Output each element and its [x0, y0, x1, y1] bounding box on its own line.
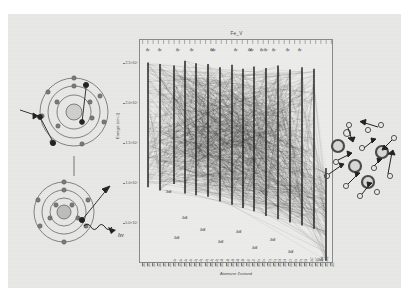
y-tick-mark	[123, 143, 126, 144]
x-tick-mark	[226, 263, 227, 266]
x-tick-label: 3d5	[332, 263, 335, 267]
x-tick-label: 3d4	[159, 263, 162, 267]
x-tick-label: 3d4	[169, 263, 172, 267]
x-tick-label: 3d2 4s2	[316, 257, 319, 267]
level-label: 4p	[298, 48, 301, 52]
x-tick-label: 3d3 5s	[263, 259, 266, 267]
plot-title: Fe_V	[139, 31, 334, 36]
x-tick-label: 3d3 4d	[227, 259, 230, 267]
level-label: 4p	[260, 48, 263, 52]
left-atom-illustration: hν	[12, 60, 138, 260]
y-tick-label: 1.0×10⁵	[125, 181, 138, 185]
y-tick-mark	[123, 183, 126, 184]
x-tick-label: 3d3 5d	[279, 259, 282, 267]
level-label: 4p	[286, 48, 289, 52]
level-label: 4p	[264, 48, 267, 52]
svg-text:hν: hν	[118, 232, 124, 238]
x-tick-label: 3d3 4p	[206, 259, 209, 267]
y-tick-label: 2.0×10⁵	[125, 101, 138, 105]
x-tick-label: 3d3 5f	[290, 260, 293, 267]
x-tick-label: 3d3 4d	[242, 259, 245, 267]
y-axis-label: Energie (cm-1)	[115, 113, 120, 139]
x-tick-label: 3d3 4s	[190, 259, 193, 267]
x-tick-label: 3d3 6d	[305, 259, 308, 267]
x-tick-label: 3d3 5p	[274, 259, 277, 267]
plasma-svg	[322, 118, 402, 208]
level-label: 4p	[158, 48, 161, 52]
x-tick-label: 3d3 5d	[284, 259, 287, 267]
configuration-label: 3d4	[200, 228, 205, 232]
grotrian-plot: Fe_V Energie (cm-1) 4p4p4p4p4p4p4p4p4p4p…	[139, 31, 334, 279]
y-tick-mark	[123, 63, 126, 64]
level-label: 4p	[146, 48, 149, 52]
x-tick-mark	[157, 263, 158, 266]
x-tick-label: 3d3 5s	[258, 259, 261, 267]
right-plasma-illustration	[322, 118, 402, 208]
x-tick-mark	[267, 263, 268, 266]
level-label: 4p	[272, 48, 275, 52]
y-tick-mark	[123, 103, 126, 104]
level-label: 4p	[234, 48, 237, 52]
configuration-label: 3d4	[218, 240, 223, 244]
atom-illustration-svg: hν	[12, 60, 138, 260]
x-tick-label: 3d3 5p	[269, 259, 272, 267]
plot-frame: 4p4p4p4p4p4p4p4p4p4p4p4p4p4p 3d43d43d43d…	[139, 39, 333, 263]
configuration-label: 3d4	[182, 216, 187, 220]
x-tick-label: 3d3 4f	[253, 260, 256, 267]
configuration-label: 3d4	[166, 190, 171, 194]
slide-canvas: hν Fe_V Energie (cm-1) 4p4p4p4p4p4p4p4p4…	[8, 14, 401, 288]
top-tick-marks	[140, 40, 333, 46]
x-tick-label: 3d4	[164, 263, 167, 267]
x-tick-label: 3d3 4d	[237, 259, 240, 267]
x-tick-label: 3d3 4p	[216, 259, 219, 267]
x-tick-label: 3d3 4d	[232, 259, 235, 267]
x-tick-mark	[288, 263, 289, 266]
x-axis-label: Atomarer Zustand	[139, 271, 333, 276]
level-label: 4p	[176, 48, 179, 52]
level-label: 4p	[250, 48, 253, 52]
configuration-label: 3d4	[174, 236, 179, 240]
x-tick-label: 3d3 4s	[174, 259, 177, 267]
x-tick-label: 3d3 6s	[295, 259, 298, 267]
y-tick-label: 1.5×10⁵	[125, 141, 138, 145]
configuration-label: 3d4	[236, 230, 241, 234]
x-tick-mark	[309, 263, 310, 266]
level-label: 4p	[212, 48, 215, 52]
x-tick-label: 3d4	[148, 263, 151, 267]
x-tick-label: 3d3 4s	[185, 259, 188, 267]
x-tick-label: 3d2 4s4p	[326, 256, 329, 267]
x-tick-mark	[330, 263, 331, 266]
x-tick-label: 3d2 4s4p	[321, 256, 324, 267]
y-tick-mark	[123, 223, 126, 224]
configuration-label: 3d4	[252, 246, 257, 250]
x-tick-label: 3d4	[153, 263, 156, 267]
x-tick-label: 3d3 4f	[248, 260, 251, 267]
x-tick-label: 3d4	[143, 263, 146, 267]
x-tick-label: 3d3 4p	[211, 259, 214, 267]
x-tick-label: 3d3 4s	[180, 259, 183, 267]
level-label: 4p	[190, 48, 193, 52]
x-tick-mark	[246, 263, 247, 266]
configuration-label: 3d4	[288, 250, 293, 254]
x-tick-label: 3d3 6p	[300, 259, 303, 267]
x-tick-mark	[178, 263, 179, 266]
y-tick-label: 2.5×10⁵	[125, 61, 138, 65]
x-tick-label: 3d3 4p	[195, 259, 198, 267]
y-tick-label: 5.0×10⁴	[125, 221, 138, 225]
configuration-label: 3d4	[270, 238, 275, 242]
x-tick-label: 3d2 4s2	[311, 257, 314, 267]
